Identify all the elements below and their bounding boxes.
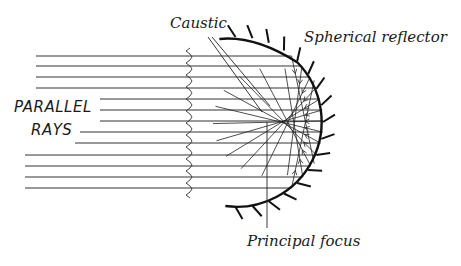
wavy-break-lines [186, 48, 192, 198]
rays-label: RAYS [31, 121, 72, 139]
principal-focus-label: Principal focus [247, 232, 360, 250]
caustic-label: Caustic [170, 14, 227, 32]
reflector-label: Spherical reflector [304, 28, 447, 46]
caustic-leader-lines [208, 37, 270, 112]
parallel-label: PARALLEL [14, 98, 92, 116]
